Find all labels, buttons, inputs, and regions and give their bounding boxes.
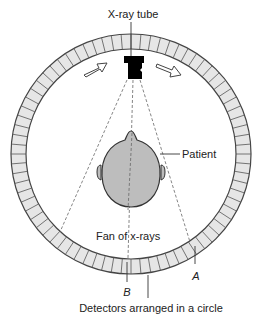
- fan-label: Fan of x-rays: [96, 230, 161, 242]
- ct-scanner-diagram: X-ray tube Patient Fan of x-rays A B Det…: [0, 0, 257, 316]
- xray-tube-label: X-ray tube: [108, 8, 159, 20]
- patient-label: Patient: [182, 148, 216, 160]
- detectors-label: Detectors arranged in a circle: [79, 302, 223, 314]
- point-b-label: B: [123, 286, 130, 298]
- point-a-label: A: [191, 270, 199, 282]
